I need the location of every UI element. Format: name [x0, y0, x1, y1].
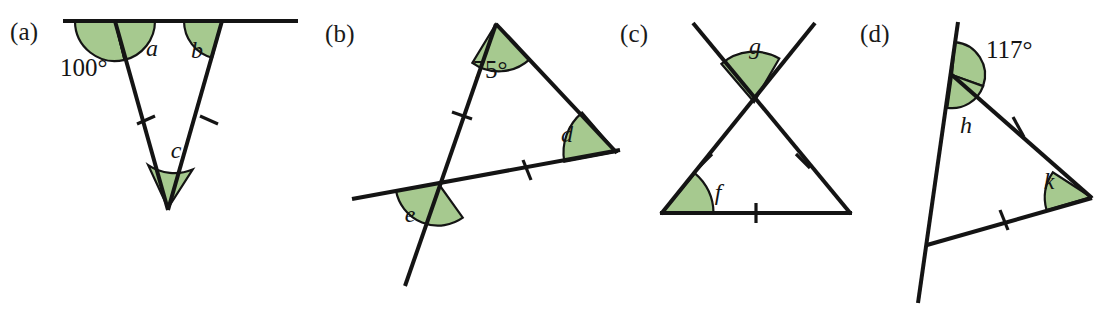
- label-angle-b: b: [191, 37, 203, 63]
- triangle-side-lower-d: [927, 198, 1092, 245]
- transversal-line-d: [918, 22, 958, 303]
- label-angle-h: h: [960, 112, 972, 138]
- tick-mark-left-a: [137, 116, 155, 124]
- label-100deg: 100°: [60, 54, 108, 81]
- triangle-side-right-b: [496, 24, 617, 153]
- panel-a: (a) 100° a b c: [0, 0, 300, 317]
- panel-a-drawing: 100° a b c: [0, 0, 300, 317]
- geometry-figure-sheet: (a) 100° a b c: [0, 0, 1104, 317]
- tick-mark-base-b: [523, 160, 531, 180]
- label-angle-c: c: [171, 137, 182, 163]
- label-angle-f: f: [715, 179, 725, 205]
- panel-c: (c) g f: [614, 0, 874, 317]
- label-angle-d: d: [561, 121, 574, 147]
- crossing-line-2-c: [661, 23, 815, 214]
- label-angle-k: k: [1044, 168, 1055, 194]
- label-angle-g: g: [749, 33, 761, 59]
- label-angle-e: e: [405, 201, 416, 227]
- tick-mark-right-a: [200, 116, 218, 124]
- label-117deg: 117°: [986, 36, 1033, 63]
- label-75deg: 75°: [473, 56, 508, 83]
- panel-d-drawing: 117° h k: [856, 0, 1104, 317]
- panel-b: (b) 75° d e: [300, 0, 620, 317]
- tick-mark-lower-d: [1000, 210, 1008, 230]
- label-angle-a: a: [146, 35, 158, 61]
- panel-b-drawing: 75° d e: [300, 0, 620, 317]
- tick-mark-left-c: [698, 154, 712, 168]
- panel-d: (d) 117° h k: [856, 0, 1104, 317]
- panel-c-drawing: g f: [614, 0, 874, 317]
- base-line-b: [352, 150, 620, 199]
